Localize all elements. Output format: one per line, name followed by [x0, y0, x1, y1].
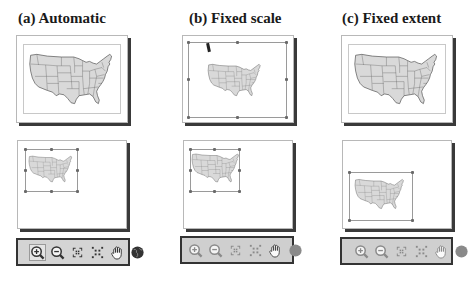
full-extent-button[interactable] — [130, 245, 145, 260]
resize-handle[interactable] — [411, 171, 414, 174]
panel-b-resized-page — [183, 140, 293, 229]
full-extent-button[interactable] — [288, 243, 303, 258]
panel-a-us-map — [28, 50, 116, 108]
resize-handle[interactable] — [285, 116, 288, 119]
zoom-in-button[interactable] — [188, 243, 203, 258]
resize-handle[interactable] — [76, 190, 79, 193]
fixed-zoom-in-button[interactable] — [70, 245, 85, 260]
resize-handle[interactable] — [285, 41, 288, 44]
resize-handle[interactable] — [24, 148, 27, 151]
fixed-zoom-out-button[interactable] — [248, 243, 263, 258]
zoom-out-button[interactable] — [50, 245, 65, 260]
pan-button[interactable] — [110, 245, 125, 260]
full-extent-globe-icon — [454, 244, 468, 259]
fixed-zoom-in-icon — [70, 245, 85, 260]
resize-handle[interactable] — [411, 219, 414, 222]
pan-hand-icon — [110, 245, 125, 260]
zoom-in-icon — [188, 243, 203, 258]
resize-handle[interactable] — [76, 148, 79, 151]
resize-handle[interactable] — [76, 169, 79, 172]
zoom-out-icon — [50, 245, 65, 260]
resize-handle[interactable] — [50, 148, 53, 151]
panel-a-layout-page — [16, 35, 128, 123]
zoom-out-icon — [374, 244, 389, 259]
resize-handle[interactable] — [238, 190, 241, 193]
zoom-out-button[interactable] — [374, 244, 389, 259]
resize-handle[interactable] — [187, 78, 190, 81]
fixed-zoom-out-icon — [248, 243, 263, 258]
fixed-zoom-out-icon — [414, 244, 429, 259]
panel-a-title: (a) Automatic — [18, 10, 106, 27]
zoom-out-icon — [208, 243, 223, 258]
panel-b-tools-toolbar — [180, 236, 294, 264]
panel-c-tools-toolbar — [340, 237, 453, 265]
pan-hand-icon — [268, 243, 283, 258]
zoom-in-button[interactable] — [30, 245, 45, 260]
panel-b-resized-us-map — [191, 151, 241, 185]
fixed-zoom-in-icon — [394, 244, 409, 259]
fixed-zoom-in-icon — [228, 243, 243, 258]
fixed-zoom-out-button[interactable] — [90, 245, 105, 260]
panel-b-layout-page — [182, 35, 294, 123]
panel-c-resized-page — [342, 140, 452, 229]
resize-handle[interactable] — [187, 41, 190, 44]
zoom-in-icon — [30, 245, 45, 260]
panel-a-resized-page — [17, 140, 127, 229]
panel-a-resized-us-map — [28, 154, 74, 184]
resize-handle[interactable] — [236, 116, 239, 119]
pan-hand-icon — [434, 244, 449, 259]
pan-button[interactable] — [268, 243, 283, 258]
resize-handle[interactable] — [189, 190, 192, 193]
resize-handle[interactable] — [285, 78, 288, 81]
full-extent-button[interactable] — [454, 244, 468, 259]
full-extent-globe-icon — [130, 245, 145, 260]
panel-c-resized-us-map — [354, 176, 406, 212]
panel-c-title: (c) Fixed extent — [342, 10, 441, 27]
resize-handle[interactable] — [50, 190, 53, 193]
fixed-zoom-in-button[interactable] — [394, 244, 409, 259]
zoom-out-button[interactable] — [208, 243, 223, 258]
panel-a-tools-toolbar — [16, 238, 130, 266]
resize-handle[interactable] — [348, 219, 351, 222]
fixed-zoom-out-icon — [90, 245, 105, 260]
panel-c-us-map — [353, 50, 441, 108]
resize-handle[interactable] — [24, 169, 27, 172]
zoom-in-icon — [354, 244, 369, 259]
resize-handle[interactable] — [24, 190, 27, 193]
pan-button[interactable] — [434, 244, 449, 259]
full-extent-globe-icon — [288, 243, 303, 258]
fixed-zoom-in-button[interactable] — [228, 243, 243, 258]
panel-c-layout-page — [341, 35, 453, 123]
resize-handle[interactable] — [213, 190, 216, 193]
fixed-zoom-out-button[interactable] — [414, 244, 429, 259]
resize-handle[interactable] — [187, 116, 190, 119]
resize-handle[interactable] — [348, 171, 351, 174]
zoom-in-button[interactable] — [354, 244, 369, 259]
resize-handle[interactable] — [236, 41, 239, 44]
panel-b-us-map — [207, 62, 263, 98]
panel-b-title: (b) Fixed scale — [189, 10, 281, 27]
